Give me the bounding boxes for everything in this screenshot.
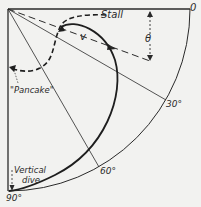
theta-label: θ — [145, 34, 151, 44]
pancake-arrow-icon — [9, 65, 16, 72]
angle-label-60: 60° — [100, 167, 116, 176]
pancake-leader — [14, 70, 18, 83]
glide-polar-diagram: Stall v θ "Pancake" Vertical dive 0 30° … — [0, 0, 201, 207]
velocity-label: v — [80, 32, 86, 42]
stall-label: Stall — [101, 10, 123, 20]
angle-label-0: 0 — [190, 3, 196, 13]
vertical-dive-label-line2: dive — [22, 176, 40, 185]
pancake-label: "Pancake" — [10, 86, 54, 95]
angle-label-90: 90° — [6, 194, 22, 203]
stall-dashed-curve — [10, 15, 106, 71]
theta-arrow-up-icon — [147, 11, 153, 17]
angle-label-30: 30° — [166, 100, 182, 109]
vertical-dive-label-line1: Vertical — [14, 166, 46, 175]
